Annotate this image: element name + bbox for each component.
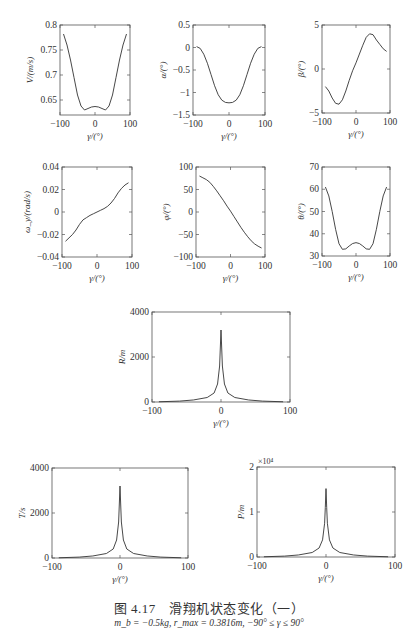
x-tick-label: 100 bbox=[258, 119, 273, 129]
plot-frame bbox=[322, 25, 390, 113]
data-line bbox=[59, 486, 181, 558]
plot-frame bbox=[52, 468, 188, 558]
y-tick-label: 0 bbox=[185, 43, 190, 53]
x-tick-label: −100 bbox=[52, 261, 72, 271]
y-tick-label: −1 bbox=[180, 88, 190, 98]
x-tick-label: 0 bbox=[93, 119, 98, 129]
y-axis-label: R/m bbox=[117, 349, 127, 365]
y-tick-label: 0.04 bbox=[42, 162, 59, 172]
y-axis-label: φ/(°) bbox=[161, 203, 171, 220]
figure-caption-subtitle: m_b = −0.5kg, r_max = 0.3816m, −90° ≤ γ … bbox=[0, 618, 418, 628]
y-tick-label: 2000 bbox=[130, 352, 149, 362]
y-tick-label: 1 bbox=[249, 507, 254, 517]
x-tick-label: 0 bbox=[354, 117, 359, 127]
x-tick-label: 0 bbox=[227, 119, 232, 129]
y-tick-label: 4000 bbox=[130, 307, 149, 317]
y-tick-label: 0 bbox=[314, 64, 319, 74]
y-tick-label: −0.02 bbox=[37, 230, 59, 240]
y-tick-label: 0 bbox=[44, 553, 49, 563]
y-tick-label: 70 bbox=[310, 162, 320, 172]
y-tick-label: −0.04 bbox=[37, 252, 59, 262]
x-tick-label: 100 bbox=[258, 261, 273, 271]
x-tick-label: −100 bbox=[247, 561, 267, 571]
x-tick-label: 100 bbox=[181, 562, 196, 572]
data-line bbox=[64, 34, 127, 110]
x-tick-label: 0 bbox=[228, 261, 233, 271]
x-axis-label: γ/(°) bbox=[87, 131, 103, 141]
chart-beta: −1000100−505γ/(°)β/(°) bbox=[296, 20, 397, 139]
x-tick-label: 0 bbox=[95, 261, 100, 271]
x-tick-label: 0 bbox=[324, 561, 329, 571]
data-line bbox=[159, 330, 283, 402]
data-line bbox=[199, 176, 261, 248]
chart-omega_y: −1000100−0.04−0.0200.020.04γ/(°)ω_y/(rad… bbox=[22, 162, 139, 283]
x-tick-label: 0 bbox=[354, 260, 359, 270]
chart-phi: −1000100−100−50050100γ/(°)φ/(°) bbox=[161, 162, 273, 283]
plot-frame bbox=[152, 312, 290, 402]
data-line bbox=[66, 183, 129, 242]
y-tick-label: 0.8 bbox=[45, 20, 57, 30]
y-tick-label: 40 bbox=[310, 229, 320, 239]
y-axis-label: α/(°) bbox=[158, 62, 168, 79]
y-tick-label: −100 bbox=[173, 252, 193, 262]
x-axis-label: γ/(°) bbox=[221, 131, 237, 141]
y-tick-label: 30 bbox=[310, 251, 320, 261]
y-tick-label: −1.5 bbox=[173, 110, 190, 120]
y-axis-label: T/s bbox=[17, 507, 27, 519]
data-line bbox=[197, 47, 262, 103]
x-tick-label: −100 bbox=[186, 261, 206, 271]
plot-frame bbox=[257, 467, 395, 557]
x-axis-label: γ/(°) bbox=[112, 574, 128, 584]
x-axis-label: γ/(°) bbox=[89, 273, 105, 283]
data-line bbox=[325, 187, 386, 249]
figure-plots: −10001000.650.70.750.8γ/(°)V/(m/s)−10001… bbox=[0, 0, 418, 636]
y-tick-label: 50 bbox=[184, 185, 194, 195]
chart-R: −1000100020004000γ/(°)R/m bbox=[117, 307, 298, 428]
x-tick-label: −100 bbox=[142, 406, 162, 416]
chart-V: −10001000.650.70.750.8γ/(°)V/(m/s) bbox=[25, 20, 138, 141]
x-tick-label: 0 bbox=[219, 406, 224, 416]
y-tick-label: 0.75 bbox=[40, 45, 57, 55]
y-tick-label: 0.7 bbox=[45, 70, 57, 80]
chart-alpha: −1000100−1.5−1−0.500.5γ/(°)α/(°) bbox=[158, 20, 273, 141]
x-tick-label: −100 bbox=[50, 119, 70, 129]
y-tick-label: 2 bbox=[249, 462, 254, 472]
x-tick-label: 0 bbox=[118, 562, 123, 572]
y-tick-label: −5 bbox=[309, 108, 319, 118]
y-axis-label: β/(°) bbox=[296, 61, 306, 79]
x-tick-label: 100 bbox=[125, 261, 140, 271]
y-tick-label: 0 bbox=[188, 207, 193, 217]
y-axis-label: ω_y/(rad/s) bbox=[22, 191, 32, 233]
y-tick-label: 0 bbox=[54, 207, 59, 217]
y-axis-label: P/m bbox=[236, 504, 246, 520]
y-tick-label: 50 bbox=[310, 207, 320, 217]
x-tick-label: −100 bbox=[312, 260, 332, 270]
x-axis-label: γ/(°) bbox=[348, 129, 364, 139]
x-axis-label: γ/(°) bbox=[348, 272, 364, 282]
y-tick-label: 60 bbox=[310, 184, 320, 194]
figure-caption-title: 图 4.17 滑翔机状态变化（一） bbox=[0, 598, 418, 617]
x-tick-label: −100 bbox=[42, 562, 62, 572]
y-tick-label: 0 bbox=[249, 552, 254, 562]
y-tick-label: 4000 bbox=[30, 463, 49, 473]
figure-page: −10001000.650.70.750.8γ/(°)V/(m/s)−10001… bbox=[0, 0, 418, 636]
y-tick-label: 0.02 bbox=[42, 185, 59, 195]
x-axis-label: γ/(°) bbox=[213, 418, 229, 428]
y-tick-label: 5 bbox=[314, 20, 319, 30]
x-tick-label: 100 bbox=[383, 117, 398, 127]
plot-frame bbox=[60, 25, 130, 115]
x-axis-label: γ/(°) bbox=[223, 273, 239, 283]
y-tick-label: 0.65 bbox=[40, 95, 57, 105]
x-tick-label: 100 bbox=[123, 119, 138, 129]
y-tick-label: 100 bbox=[179, 162, 194, 172]
x-tick-label: 100 bbox=[383, 260, 398, 270]
y-tick-label: 0.5 bbox=[178, 20, 190, 30]
y-tick-label: 2000 bbox=[30, 508, 49, 518]
y-axis-label: V/(m/s) bbox=[25, 57, 35, 84]
y-tick-label: −50 bbox=[178, 230, 193, 240]
x-tick-label: −100 bbox=[183, 119, 203, 129]
x-tick-label: 100 bbox=[388, 561, 403, 571]
x-axis-label: γ/(°) bbox=[318, 573, 334, 583]
chart-T: −1000100020004000γ/(°)T/s bbox=[17, 463, 196, 584]
chart-P: −1000100012×10⁴γ/(°)P/m bbox=[236, 457, 402, 583]
